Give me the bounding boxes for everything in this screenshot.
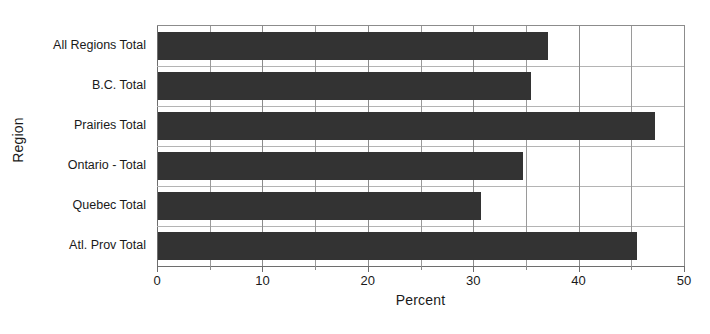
bar — [158, 152, 523, 180]
x-axis-tick — [579, 266, 580, 272]
x-axis-tick-minor — [421, 266, 422, 270]
y-axis-tick-label: All Regions Total — [53, 25, 146, 65]
gridline-vertical — [262, 26, 263, 266]
x-axis-tick-minor — [526, 266, 527, 270]
y-axis-tick-label: Atl. Prov Total — [69, 225, 146, 265]
x-axis-tick — [684, 266, 685, 272]
x-axis-tick-minor — [315, 266, 316, 270]
x-axis-tick-labels: 01020304050 — [157, 273, 697, 293]
x-axis-tick-minor — [210, 266, 211, 270]
y-axis-tick-label: Quebec Total — [73, 185, 146, 225]
gridline-vertical-minor — [210, 26, 211, 266]
gridline-vertical — [368, 26, 369, 266]
x-axis-tick — [157, 266, 158, 272]
y-axis-tick-label: B.C. Total — [92, 65, 146, 105]
gridline-vertical — [684, 26, 685, 266]
gridline-vertical — [579, 26, 580, 266]
x-axis-title-text: Percent — [396, 292, 446, 308]
x-axis-tick-label: 0 — [153, 273, 160, 288]
gridline-vertical-minor — [631, 26, 632, 266]
bar — [158, 72, 531, 100]
bar — [158, 112, 655, 140]
x-axis-title: Percent — [157, 292, 684, 308]
bar — [158, 192, 481, 220]
x-axis-tick — [262, 266, 263, 272]
y-axis-tick-label: Prairies Total — [74, 105, 146, 145]
x-axis-tick-label: 50 — [677, 273, 691, 288]
x-axis-tick-label: 30 — [466, 273, 480, 288]
bar — [158, 232, 637, 260]
x-axis-tick — [368, 266, 369, 272]
bar — [158, 32, 548, 60]
x-axis-tick-label: 40 — [571, 273, 585, 288]
gridline-vertical-minor — [421, 26, 422, 266]
gridline-vertical-minor — [315, 26, 316, 266]
gridline-vertical — [473, 26, 474, 266]
x-axis-tick-minor — [631, 266, 632, 270]
y-axis-tick-labels: All Regions TotalB.C. TotalPrairies Tota… — [24, 25, 152, 265]
plot-area — [157, 25, 685, 266]
y-axis-tick-label: Ontario - Total — [68, 145, 146, 185]
x-axis-tick-label: 10 — [255, 273, 269, 288]
x-axis-tick-label: 20 — [361, 273, 375, 288]
bar-chart: Region All Regions TotalB.C. TotalPrairi… — [0, 0, 710, 334]
x-axis-tick — [473, 266, 474, 272]
gridline-vertical-minor — [526, 26, 527, 266]
